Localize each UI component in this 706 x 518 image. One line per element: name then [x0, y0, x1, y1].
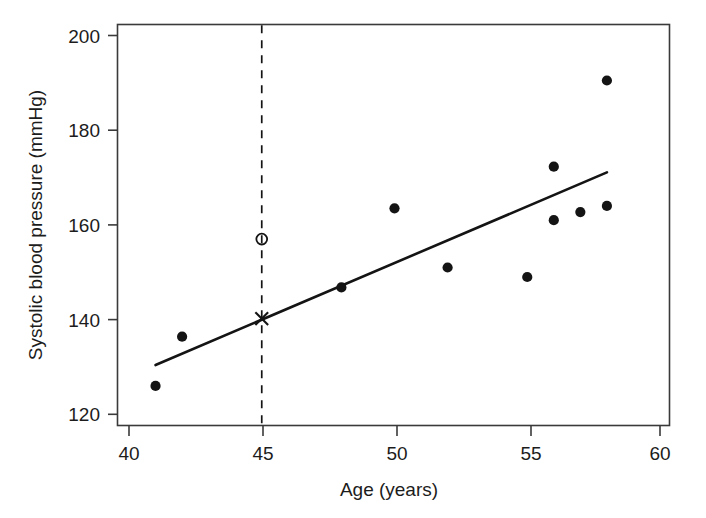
plot-canvas: 200 180 160 140 120 40 45 50 55 60 Age (…	[0, 0, 706, 518]
y-tick-label-200: 200	[68, 26, 100, 47]
data-point	[602, 201, 612, 211]
y-axis-title: Systolic blood pressure (mmHg)	[25, 90, 46, 360]
data-point	[602, 75, 612, 85]
y-tick-label-160: 160	[68, 215, 100, 236]
x-tick-label-50: 50	[386, 443, 407, 464]
x-tick-label-40: 40	[118, 443, 139, 464]
data-point	[389, 203, 399, 213]
y-tick-label-180: 180	[68, 120, 100, 141]
x-axis-title: Age (years)	[340, 479, 438, 500]
data-point	[549, 162, 559, 172]
y-tick-label-120: 120	[68, 404, 100, 425]
data-point	[177, 332, 187, 342]
x-axis-ticks	[129, 426, 660, 437]
data-point	[336, 282, 346, 292]
x-tick-label-45: 45	[252, 443, 273, 464]
data-point	[522, 272, 532, 282]
x-tick-label-55: 55	[520, 443, 541, 464]
data-point	[549, 215, 559, 225]
data-point	[150, 381, 160, 391]
y-tick-label-140: 140	[68, 310, 100, 331]
scatter-plot-figure: 200 180 160 140 120 40 45 50 55 60 Age (…	[0, 0, 706, 518]
x-tick-label-60: 60	[649, 443, 670, 464]
plot-frame	[118, 25, 670, 426]
data-point	[443, 262, 453, 272]
data-point	[575, 207, 585, 217]
y-axis-ticks	[108, 36, 118, 415]
